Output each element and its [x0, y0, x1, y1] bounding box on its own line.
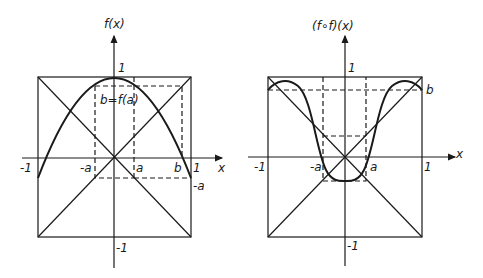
y-axis-label: (f∘f)(x)	[312, 19, 354, 33]
tick-x-one: 1	[424, 160, 432, 174]
tick-y-neg-a: -a	[193, 179, 205, 193]
tick-x-b: b	[174, 161, 182, 175]
x-axis-label: x	[217, 161, 226, 175]
left-panel: f(x) 1 b=f(a) -1 -a a b 1 x -a -1	[20, 17, 226, 268]
diagram-canvas: f(x) 1 b=f(a) -1 -a a b 1 x -a -1 (f∘f)(…	[0, 0, 483, 278]
tick-x-neg-a: -a	[80, 161, 92, 175]
y-axis-label: f(x)	[104, 17, 125, 31]
annotation-b-fa: b=f(a)	[100, 93, 139, 107]
right-panel: (f∘f)(x) 1 b -1 -a a 1 x -1	[248, 19, 464, 266]
tick-y-neg-one: -1	[116, 241, 128, 255]
tick-x-one: 1	[193, 161, 201, 175]
tick-y-neg-one: -1	[347, 239, 359, 253]
tick-x-a: a	[136, 161, 143, 175]
tick-x-neg-a: -a	[310, 160, 322, 174]
tick-y-one: 1	[118, 61, 126, 75]
tick-y-one: 1	[348, 61, 356, 75]
tick-x-a: a	[370, 160, 377, 174]
tick-y-b: b	[426, 83, 434, 97]
tick-x-neg-one: -1	[20, 161, 32, 175]
x-axis-label: x	[455, 147, 464, 161]
tick-x-neg-one: -1	[254, 160, 266, 174]
